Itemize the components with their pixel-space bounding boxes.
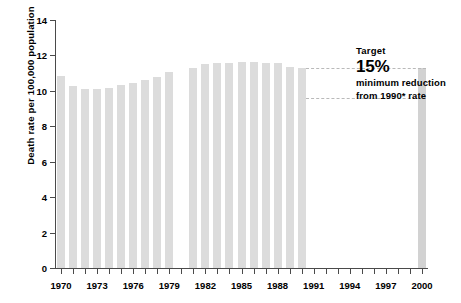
x-tick [145, 269, 146, 274]
y-axis-title: Death rate per 100,000 population [25, 0, 36, 186]
y-tick [50, 126, 55, 127]
y-tick-label: 6 [42, 156, 47, 167]
y-tick [50, 91, 55, 92]
y-tick-label: 4 [42, 192, 47, 203]
x-tick [205, 269, 206, 274]
x-tick [278, 269, 279, 274]
x-tick-label: 1976 [123, 280, 144, 291]
bar [165, 72, 173, 268]
x-tick-label: 1973 [87, 280, 108, 291]
bar [117, 85, 125, 268]
y-tick [50, 162, 55, 163]
x-tick [121, 269, 122, 274]
bar [141, 80, 149, 268]
bar [274, 63, 282, 268]
x-tick [85, 269, 86, 274]
x-tick [157, 269, 158, 274]
x-tick [362, 269, 363, 274]
y-tick-label: 14 [36, 15, 47, 26]
x-tick [374, 269, 375, 274]
bar [225, 63, 233, 268]
y-tick [50, 55, 55, 56]
chart-figure: Death rate per 100,000 population 024681… [0, 0, 461, 303]
bar [81, 89, 89, 268]
x-tick [266, 269, 267, 274]
x-tick [386, 269, 387, 274]
x-tick [290, 269, 291, 274]
x-tick [302, 269, 303, 274]
bar [69, 86, 77, 268]
bar [105, 88, 113, 268]
x-tick-label: 1994 [339, 280, 360, 291]
x-tick [422, 269, 423, 274]
bar [93, 89, 101, 268]
x-tick [398, 269, 399, 274]
x-tick-label: 1997 [375, 280, 396, 291]
annotation-minimum-reduction: minimum reduction [356, 76, 461, 89]
x-tick [193, 269, 194, 274]
y-tick-label: 8 [42, 121, 47, 132]
bar [201, 64, 209, 268]
x-tick [326, 269, 327, 274]
bar [189, 68, 197, 268]
y-tick-label: 0 [42, 263, 47, 274]
x-tick [169, 269, 170, 274]
x-tick-label: 1991 [303, 280, 324, 291]
annotation-from-1990-rate: from 1990* rate [356, 89, 461, 102]
x-tick [61, 269, 62, 274]
y-tick [50, 20, 55, 21]
x-tick-label: 1979 [159, 280, 180, 291]
y-tick [50, 268, 55, 269]
x-tick [217, 269, 218, 274]
x-tick [242, 269, 243, 274]
x-tick [73, 269, 74, 274]
bar [298, 68, 306, 268]
y-tick-label: 2 [42, 227, 47, 238]
y-tick-label: 10 [36, 85, 47, 96]
x-tick-label: 2000 [411, 280, 432, 291]
x-tick [314, 269, 315, 274]
x-tick [350, 269, 351, 274]
y-axis-line [55, 20, 56, 269]
x-tick-label: 1985 [231, 280, 252, 291]
x-tick-label: 1970 [50, 280, 71, 291]
y-tick [50, 233, 55, 234]
bar [129, 83, 137, 268]
x-tick [338, 269, 339, 274]
x-tick-label: 1982 [195, 280, 216, 291]
y-tick [50, 197, 55, 198]
x-tick [410, 269, 411, 274]
x-tick-label: 1988 [267, 280, 288, 291]
annotation-target-label: Target [356, 45, 461, 57]
x-tick [97, 269, 98, 274]
x-tick [229, 269, 230, 274]
x-tick [254, 269, 255, 274]
bar [286, 67, 294, 268]
x-tick [181, 269, 182, 274]
target-annotation: Target 15% minimum reduction from 1990* … [356, 45, 461, 102]
bar [153, 77, 161, 268]
bar [262, 63, 270, 268]
x-tick [109, 269, 110, 274]
bar [213, 63, 221, 268]
bar [238, 62, 246, 268]
bar [250, 62, 258, 268]
y-tick-label: 12 [36, 50, 47, 61]
annotation-percent: 15% [356, 57, 461, 76]
x-tick [133, 269, 134, 274]
bar [57, 76, 65, 268]
